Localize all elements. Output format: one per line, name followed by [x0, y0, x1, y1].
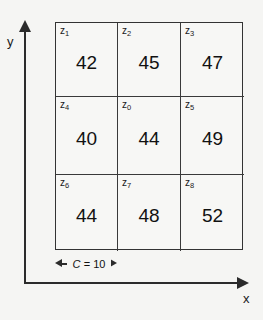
cell-value: 49 — [181, 128, 244, 147]
arrow-up-icon — [19, 20, 31, 32]
x-axis-label: x — [243, 292, 250, 305]
cell-size-annotation: C = 10 — [55, 255, 117, 273]
measure-symbol: C — [73, 258, 81, 270]
cell-label: z1 — [60, 25, 69, 36]
cell-label: z8 — [185, 177, 194, 188]
measure-equals: = — [84, 258, 90, 270]
arrow-right-icon — [237, 277, 249, 289]
grid-cell: z8 52 — [181, 175, 244, 251]
neighborhood-grid: z1 42 z2 45 z3 47 z4 40 z0 44 z5 49 z6 4… — [55, 22, 243, 250]
figure-canvas: y x z1 42 z2 45 z3 47 z4 40 z0 44 z5 49 — [0, 0, 263, 320]
cell-value: 40 — [56, 128, 117, 147]
cell-value: 47 — [181, 52, 244, 71]
grid-cell-center: z0 44 — [118, 97, 181, 175]
cell-value: 45 — [118, 52, 180, 71]
x-axis-line — [24, 282, 239, 284]
cell-value: 44 — [118, 128, 180, 147]
cell-value: 48 — [118, 206, 180, 225]
cell-label: z0 — [122, 99, 131, 110]
grid-cell: z3 47 — [181, 23, 244, 97]
cell-value: 42 — [56, 52, 117, 71]
cell-label: z6 — [60, 177, 69, 188]
grid-cell: z2 45 — [118, 23, 181, 97]
measure-label: C = 10 — [67, 255, 111, 273]
measure-value: 10 — [93, 258, 105, 270]
cell-value: 52 — [181, 206, 244, 225]
cell-label: z7 — [122, 177, 131, 188]
cell-value: 44 — [56, 206, 117, 225]
grid-cell: z4 40 — [56, 97, 118, 175]
grid-cell: z6 44 — [56, 175, 118, 251]
cell-label: z2 — [122, 25, 131, 36]
arrow-right-icon — [110, 259, 117, 267]
grid-cell: z5 49 — [181, 97, 244, 175]
grid-cell: z7 48 — [118, 175, 181, 251]
y-axis-line — [24, 30, 26, 284]
cell-label: z5 — [185, 99, 194, 110]
cell-label: z4 — [60, 99, 69, 110]
grid-cell: z1 42 — [56, 23, 118, 97]
cell-label: z3 — [185, 25, 194, 36]
y-axis-label: y — [7, 35, 14, 48]
